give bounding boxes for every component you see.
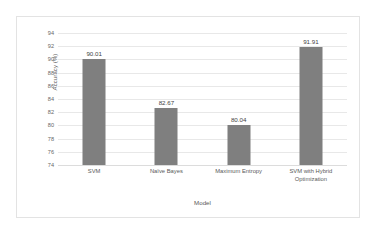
- x-axis-tick-label-line: Maximum Entropy: [203, 168, 275, 176]
- bar-value-label: 80.04: [231, 116, 246, 123]
- y-axis-tick-label: 74: [48, 162, 54, 168]
- bar[interactable]: [155, 108, 178, 165]
- y-axis-tick-label: 90: [48, 56, 54, 62]
- y-axis-tick-label: 80: [48, 122, 54, 128]
- x-axis-tick-label: Maximum Entropy: [203, 168, 275, 176]
- y-axis-tick-label: 82: [48, 109, 54, 115]
- x-axis-tick-label: SVM: [58, 168, 130, 176]
- bar[interactable]: [227, 125, 250, 165]
- bar-value-label: 90.01: [86, 50, 101, 57]
- bar[interactable]: [299, 47, 322, 165]
- x-axis-tick-label-line: Optimization: [275, 176, 347, 184]
- x-axis-tick-labels: SVMNaïve BayesMaximum EntropySVM with Hy…: [58, 168, 347, 198]
- x-axis-tick-label-line: Naïve Bayes: [130, 168, 202, 176]
- x-axis-tick-label-line: SVM: [58, 168, 130, 176]
- chart-container: Accuracy (%) 7476788082848688909294 90.0…: [16, 16, 360, 218]
- bar-group: 80.04: [203, 33, 275, 165]
- bar-value-label: 82.67: [159, 99, 174, 106]
- plot-area: 7476788082848688909294 90.0182.6780.0491…: [58, 33, 347, 165]
- y-axis-tick-label: 94: [48, 30, 54, 36]
- y-axis-tick-label: 92: [48, 43, 54, 49]
- bar[interactable]: [83, 59, 106, 165]
- y-axis-tick-label: 84: [48, 96, 54, 102]
- y-axis-tick-label: 88: [48, 70, 54, 76]
- bar-value-label: 91.91: [303, 38, 318, 45]
- x-axis-tick-label: SVM with HybridOptimization: [275, 168, 347, 183]
- x-axis-tick-label-line: SVM with Hybrid: [275, 168, 347, 176]
- y-axis-tick-label: 86: [48, 83, 54, 89]
- bar-group: 90.01: [58, 33, 130, 165]
- bar-series: 90.0182.6780.0491.91: [58, 33, 347, 165]
- x-axis-tick-label: Naïve Bayes: [130, 168, 202, 176]
- gridline: [58, 165, 347, 166]
- y-axis-tick-label: 76: [48, 149, 54, 155]
- bar-group: 91.91: [275, 33, 347, 165]
- x-axis-title: Model: [58, 199, 347, 206]
- y-axis-tick-label: 78: [48, 136, 54, 142]
- bar-group: 82.67: [130, 33, 202, 165]
